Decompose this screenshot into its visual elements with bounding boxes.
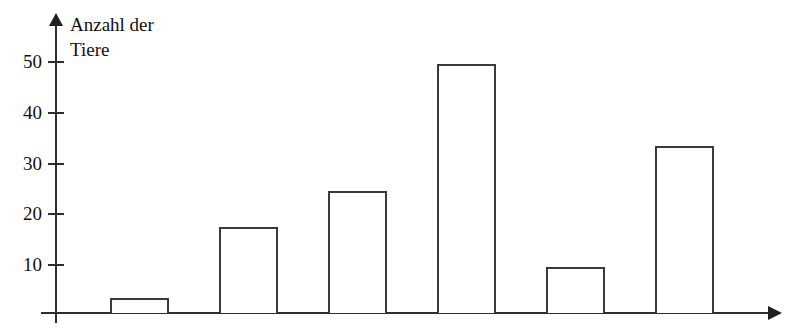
y-tick-label-30: 30 (8, 154, 42, 173)
cropped-title-remnant (0, 0, 796, 2)
bar-1 (110, 298, 169, 313)
y-axis-caption: Anzahl der Tiere (70, 12, 154, 62)
arrow-right-icon (768, 306, 782, 320)
y-axis-line (55, 22, 57, 314)
bar-6 (655, 146, 714, 313)
bar-5 (546, 267, 605, 313)
y-tick-mark-10 (48, 264, 64, 266)
y-tick-mark-50 (48, 61, 64, 63)
origin-tick-mark (48, 312, 64, 314)
y-tick-mark-20 (48, 213, 64, 215)
y-tick-label-40: 40 (8, 103, 42, 122)
bar-2 (219, 227, 278, 313)
bar-chart-figure: Anzahl der Tiere 10 20 30 40 50 (0, 0, 796, 333)
arrow-up-icon (49, 13, 63, 26)
y-tick-label-50: 50 (8, 52, 42, 71)
bar-3 (328, 191, 387, 313)
bar-4 (437, 64, 496, 313)
y-tick-label-20: 20 (8, 204, 42, 223)
y-tick-mark-30 (48, 163, 64, 165)
y-tick-label-10: 10 (8, 255, 42, 274)
y-tick-mark-40 (48, 112, 64, 114)
